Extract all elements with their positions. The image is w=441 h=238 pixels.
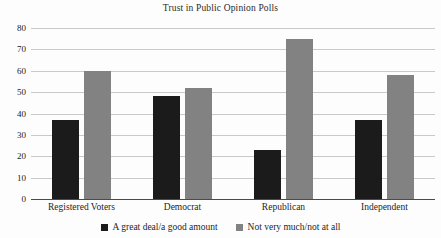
x-tick-label: Republican <box>233 202 334 212</box>
bar <box>153 96 180 199</box>
legend-label: A great deal/a good amount <box>113 222 218 232</box>
gridline <box>31 28 435 29</box>
y-tick-label: 30 <box>4 130 26 140</box>
plot-area <box>31 28 435 199</box>
x-tick-label: Registered Voters <box>31 202 132 212</box>
bar <box>52 120 79 199</box>
bar <box>185 88 212 199</box>
legend-label: Not very much/not at all <box>248 222 341 232</box>
y-tick-label: 60 <box>4 66 26 76</box>
x-axis-baseline <box>31 199 435 200</box>
y-tick-label: 50 <box>4 87 26 97</box>
bar <box>286 39 313 199</box>
x-tick-label: Independent <box>334 202 435 212</box>
bar <box>254 150 281 199</box>
x-tick-label: Democrat <box>132 202 233 212</box>
y-tick-label: 20 <box>4 151 26 161</box>
bar <box>84 71 111 199</box>
y-tick-label: 40 <box>4 109 26 119</box>
chart-figure: Trust in Public Opinion Polls 0102030405… <box>0 0 441 238</box>
y-tick-label: 10 <box>4 173 26 183</box>
chart-legend: A great deal/a good amountNot very much/… <box>0 222 441 232</box>
legend-swatch-icon <box>236 224 243 231</box>
y-tick-label: 0 <box>4 194 26 204</box>
x-axis-tick-labels: Registered VotersDemocratRepublicanIndep… <box>31 202 435 218</box>
bar <box>387 75 414 199</box>
legend-swatch-icon <box>101 224 108 231</box>
y-tick-label: 80 <box>4 23 26 33</box>
bar <box>355 120 382 199</box>
legend-entry[interactable]: A great deal/a good amount <box>101 222 218 232</box>
legend-entry[interactable]: Not very much/not at all <box>236 222 341 232</box>
y-axis-tick-labels: 01020304050607080 <box>0 28 26 199</box>
chart-title: Trust in Public Opinion Polls <box>0 3 441 13</box>
y-tick-label: 70 <box>4 44 26 54</box>
gridline <box>31 49 435 50</box>
